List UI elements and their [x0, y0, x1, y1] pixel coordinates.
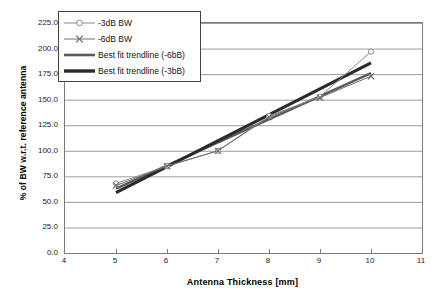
x-axis-title: Antenna Thickness [mm] — [64, 277, 421, 287]
y-axis-tick-label: 150.0 — [24, 94, 58, 103]
x-axis-ticks — [117, 249, 372, 253]
y-axis-tick-label: 50.0 — [24, 196, 58, 205]
data-point-marker — [368, 49, 373, 54]
x-axis-tick-label: 6 — [154, 256, 178, 265]
x-axis-tick-label: 9 — [307, 256, 331, 265]
y-axis-tick-label: 100.0 — [24, 145, 58, 154]
legend-label: -6dB BW — [96, 34, 132, 44]
legend-marker-circle-icon — [77, 20, 83, 26]
x-axis-tick-label: 7 — [205, 256, 229, 265]
x-axis-tick-label: 10 — [358, 256, 382, 265]
legend-item[interactable]: Best fit trendline (-6bB) — [63, 47, 196, 63]
x-axis-tick-labels: 4567891011 — [0, 256, 445, 270]
y-axis-tick-label: 25.0 — [24, 222, 58, 231]
y-axis-tick-label: 75.0 — [24, 171, 58, 180]
legend-key-icon — [63, 32, 96, 46]
x-axis-tick-label: 11 — [409, 256, 433, 265]
x-axis-tick-label: 4 — [52, 256, 76, 265]
chart-legend: -3dB BW-6dB BWBest fit trendline (-6bB)B… — [58, 11, 201, 82]
y-axis-tick-label: 125.0 — [24, 120, 58, 129]
x-axis-tick-label: 8 — [256, 256, 280, 265]
legend-item[interactable]: -6dB BW — [63, 31, 196, 47]
trendline — [116, 63, 371, 193]
legend-item[interactable]: Best fit trendline (-3bB) — [63, 63, 196, 79]
legend-key-icon — [63, 64, 96, 78]
legend-label: -3dB BW — [96, 18, 132, 28]
legend-label: Best fit trendline (-3bB) — [96, 66, 185, 76]
legend-label: Best fit trendline (-6bB) — [96, 50, 185, 60]
legend-key-icon — [63, 16, 96, 30]
y-axis-tick-label: 175.0 — [24, 69, 58, 78]
legend-item[interactable]: -3dB BW — [63, 15, 196, 31]
x-axis-tick-label: 5 — [103, 256, 127, 265]
y-axis-tick-label: 225.0 — [24, 18, 58, 27]
y-axis-tick-label: 200.0 — [24, 43, 58, 52]
chart-container: % of BW w.r.t. reference antenna 0.025.0… — [0, 0, 445, 302]
legend-key-icon — [63, 48, 96, 62]
